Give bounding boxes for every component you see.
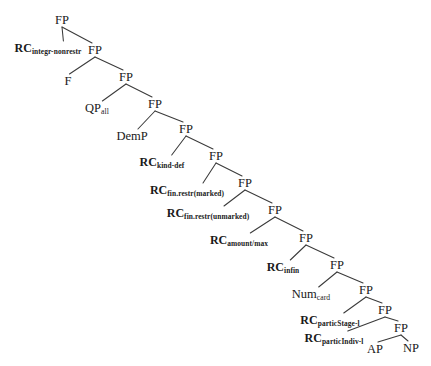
node-label: FP [179, 122, 193, 136]
tree-node-rc3: RCfin.restr(marked) [150, 184, 224, 196]
tree-edge [138, 111, 155, 129]
tree-node-qp: QPall [85, 102, 109, 115]
tree-edge [290, 245, 306, 260]
tree-node-rc5: RCamount/max [210, 234, 268, 246]
node-label: FP [209, 149, 223, 163]
node-subscript: kind-def [157, 161, 185, 170]
tree-node-rc4: RCfin.restr(unmarked) [167, 207, 250, 219]
node-label: FP [378, 303, 392, 317]
node-label: RC [210, 233, 227, 247]
node-subscript: fin.restr(marked) [167, 189, 224, 198]
node-label: RC [300, 313, 317, 327]
tree-edge [337, 272, 363, 283]
node-subscript: fin.restr(unmarked) [184, 212, 249, 221]
tree-edge [224, 190, 245, 206]
tree-edge [102, 84, 126, 101]
tree-node-fp8: FP [268, 204, 282, 217]
node-label: RC [140, 155, 157, 169]
node-subscript: infin [284, 266, 299, 275]
tree-node-fp5: FP [179, 123, 193, 136]
tree-node-demp: DemP [116, 130, 147, 143]
tree-node-fp10: FP [330, 259, 344, 272]
node-label: AP [367, 342, 383, 356]
node-subscript: amount/max [227, 239, 268, 248]
node-label: FP [88, 43, 102, 57]
node-label: FP [394, 321, 408, 335]
tree-node-fp9: FP [299, 232, 313, 245]
tree-edge [126, 84, 152, 97]
tree-node-fp12: FP [378, 304, 392, 317]
node-label: NP [403, 341, 419, 355]
tree-node-rc2: RCkind-def [140, 156, 185, 168]
tree-edge [250, 217, 275, 233]
node-label: FP [148, 97, 162, 111]
node-label: QP [85, 101, 101, 115]
node-label: RC [305, 331, 322, 345]
tree-node-fp13: FP [394, 322, 408, 335]
tree-edge [319, 272, 337, 287]
tree-node-rc1: RCintegr-nonrestr [15, 42, 82, 54]
node-label: RC [15, 41, 32, 55]
node-label: Num [292, 287, 317, 301]
node-subscript: particStage-l [318, 319, 360, 328]
tree-edge [95, 57, 123, 70]
tree-node-f1: F [65, 75, 72, 88]
node-label: RC [267, 260, 284, 274]
syntax-tree-figure: FPFPFPFPFPFPFPFPFPFPFPFPFPRCintegr-nonre… [0, 0, 431, 366]
tree-node-fp3: FP [119, 71, 133, 84]
tree-node-rc6: RCinfin [267, 261, 300, 273]
node-subscript: card [317, 293, 330, 302]
tree-edge [306, 245, 334, 258]
tree-node-fp6: FP [209, 150, 223, 163]
tree-edge [62, 27, 63, 41]
node-label: FP [268, 203, 282, 217]
tree-node-fp2: FP [88, 44, 102, 57]
node-label: FP [55, 13, 69, 27]
node-subscript: all [101, 107, 109, 116]
tree-node-fp11: FP [359, 284, 373, 297]
tree-node-np: NP [403, 342, 419, 355]
tree-edge [245, 190, 272, 203]
node-label: DemP [116, 129, 147, 143]
tree-node-fp7: FP [238, 177, 252, 190]
tree-node-num: Numcard [292, 288, 330, 301]
node-label: FP [238, 176, 252, 190]
tree-edge [275, 217, 303, 231]
tree-node-rc7: RCparticStage-l [300, 314, 359, 326]
tree-edge [155, 111, 183, 122]
tree-node-ap: AP [367, 343, 383, 356]
tree-edge [203, 163, 216, 183]
tree-edge [344, 297, 366, 313]
node-label: FP [330, 258, 344, 272]
node-subscript: particIndiv-l [322, 337, 364, 346]
tree-edge [186, 136, 213, 149]
node-label: F [65, 74, 72, 88]
node-label: FP [119, 70, 133, 84]
node-label: RC [150, 183, 167, 197]
tree-edge [172, 136, 186, 155]
tree-edge [69, 57, 95, 74]
node-label: FP [359, 283, 373, 297]
node-label: RC [167, 206, 184, 220]
tree-node-fp1: FP [55, 14, 69, 27]
tree-node-fp4: FP [148, 98, 162, 111]
tree-edge [216, 163, 242, 176]
node-subscript: integr-nonrestr [32, 47, 82, 56]
tree-node-rc8: RCparticIndiv-l [305, 332, 364, 344]
node-label: FP [299, 231, 313, 245]
tree-edge [62, 27, 92, 43]
